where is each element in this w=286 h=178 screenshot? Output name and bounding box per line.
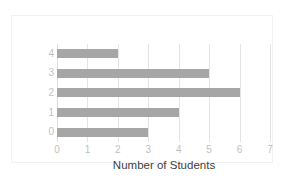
- bar-hours-4: [57, 49, 118, 58]
- x-tick-3: 3: [140, 145, 156, 155]
- bar-row: [57, 122, 270, 142]
- x-tick-7: 7: [262, 145, 278, 155]
- y-tick-4: 4: [42, 49, 54, 59]
- x-tick-4: 4: [171, 145, 187, 155]
- chart-frame: Hours Studied 43210 01234567 Number of S…: [11, 15, 273, 163]
- bar-row: [57, 103, 270, 123]
- bar-hours-3: [57, 69, 209, 78]
- bar-hours-0: [57, 128, 148, 137]
- y-axis-tick-labels: 43210: [40, 44, 54, 142]
- bar-row: [57, 44, 270, 64]
- x-tick-1: 1: [79, 145, 95, 155]
- x-tick-0: 0: [49, 145, 65, 155]
- bar-hours-2: [57, 88, 240, 97]
- x-tick-6: 6: [232, 145, 248, 155]
- bar-row: [57, 83, 270, 103]
- x-axis-tick-labels: 01234567: [57, 145, 270, 157]
- x-tick-5: 5: [201, 145, 217, 155]
- x-axis-title: Number of Students: [57, 159, 271, 171]
- y-tick-1: 1: [42, 108, 54, 118]
- bar-row: [57, 64, 270, 84]
- y-tick-0: 0: [42, 127, 54, 137]
- y-tick-2: 2: [42, 88, 54, 98]
- gridline-7: [270, 44, 271, 142]
- bar-hours-1: [57, 108, 179, 117]
- plot-area: [57, 44, 270, 142]
- x-tick-2: 2: [110, 145, 126, 155]
- y-tick-3: 3: [42, 68, 54, 78]
